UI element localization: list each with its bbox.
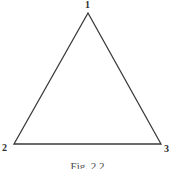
triangle-outline xyxy=(14,13,161,144)
figure-caption: Fig. 2.2 xyxy=(0,161,175,169)
vertex-label-1: 1 xyxy=(85,0,90,10)
vertex-label-3: 3 xyxy=(164,144,169,154)
triangle-diagram xyxy=(0,0,175,169)
vertex-label-2: 2 xyxy=(2,143,7,153)
figure-container: 1 2 3 Fig. 2.2 xyxy=(0,0,175,169)
